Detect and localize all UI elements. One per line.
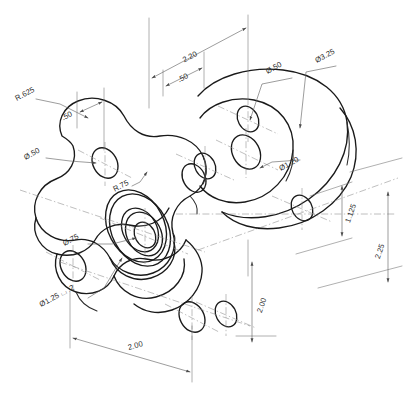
dimension-diam-50-left: Ø.50 bbox=[22, 146, 96, 163]
dim-label-diam-50-left: Ø.50 bbox=[22, 146, 41, 162]
ext-line-1-125-bottom bbox=[296, 238, 352, 254]
disc-flange-back-face-arc bbox=[198, 69, 348, 218]
dimension-diam-3-25: Ø3.25 bbox=[300, 47, 336, 128]
dimension-2-20: 2.20 bbox=[149, 15, 248, 108]
dim-label-2-25: 2.25 bbox=[373, 242, 387, 259]
dim-label-2-00-right: 2.00 bbox=[255, 296, 269, 313]
dimension-2-00-bottom: 2.00 bbox=[70, 292, 192, 382]
leader-counterbore bbox=[88, 258, 122, 298]
dim-line-50-left bbox=[80, 102, 102, 112]
counterbore-boss-outer-ellipse bbox=[97, 183, 182, 276]
dim-label-diam-75: Ø.75 bbox=[61, 232, 80, 248]
dim-label-50-top: .50 bbox=[176, 71, 190, 84]
isometric-drawing-svg: 2.20 .50 Ø.50 Ø3.25 R.625 . bbox=[0, 0, 414, 403]
ext-line-2-25-bottom bbox=[318, 266, 402, 288]
leader-diam-3-25 bbox=[300, 66, 336, 128]
ext-line-1-125-top bbox=[310, 182, 352, 196]
dim-label-r-625: R.625 bbox=[14, 85, 37, 103]
dim-label-diam-50-top: Ø.50 bbox=[264, 60, 283, 76]
centerline-body-major-upper bbox=[20, 190, 205, 252]
four-lobe-plate-group bbox=[35, 98, 211, 336]
ext-line-2-25-top bbox=[350, 158, 402, 172]
dimension-diam-1-20: Ø1.20 bbox=[260, 155, 300, 173]
dim-label-50-left: .50 bbox=[60, 109, 74, 122]
center-lines-group bbox=[20, 98, 398, 340]
dimension-diam-50-top: Ø.50 bbox=[250, 60, 292, 120]
dim-label-diam-3-25: Ø3.25 bbox=[313, 47, 336, 65]
dim-label-diam-1-20: Ø1.20 bbox=[277, 155, 300, 173]
disc-flange-group bbox=[190, 69, 356, 330]
dim-label-2-00-bottom: 2.00 bbox=[127, 339, 144, 352]
leader-r-75 bbox=[132, 172, 147, 186]
plate-right-lobe-blend bbox=[190, 196, 197, 214]
plate-bottom-left-thickness-edge bbox=[76, 292, 97, 311]
plate-bottom-face-silhouette-bottom bbox=[110, 242, 175, 279]
dimension-50-left: .50 bbox=[60, 88, 104, 150]
leader-diam-50-left bbox=[46, 158, 96, 163]
engineering-drawing-canvas: 2.20 .50 Ø.50 Ø3.25 R.625 . bbox=[0, 0, 414, 403]
dim-line-2-20 bbox=[152, 28, 246, 78]
disc-hub-outer-arc bbox=[200, 99, 293, 203]
dimension-2-00-right: 2.00 bbox=[236, 240, 276, 342]
counterbore-ellipse-1-25 bbox=[114, 202, 166, 259]
dim-label-1-125: 1.125 bbox=[343, 202, 358, 223]
centerline-hub-bore-axis bbox=[216, 140, 278, 170]
dim-label-2-20: 2.20 bbox=[181, 49, 199, 64]
dimension-1-125: 1.125 bbox=[296, 182, 358, 254]
